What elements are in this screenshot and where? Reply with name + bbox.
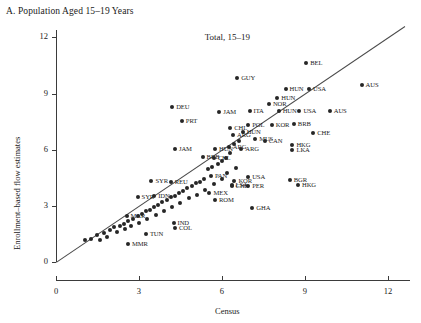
- data-point: [296, 183, 300, 187]
- data-point-label: MEX: [213, 189, 227, 196]
- data-point: [160, 200, 164, 204]
- data-point-label: JAM: [223, 108, 236, 115]
- data-point: [178, 201, 182, 205]
- data-point: [162, 209, 166, 213]
- y-tick: [52, 37, 56, 38]
- data-point: [165, 198, 169, 202]
- data-point-label: BRB: [298, 120, 311, 127]
- data-point: [131, 217, 135, 221]
- x-tick: [56, 276, 57, 280]
- data-point: [98, 238, 102, 242]
- data-point: [250, 206, 254, 210]
- y-tick-label: 6: [24, 144, 48, 154]
- x-tick: [222, 276, 223, 280]
- data-point: [220, 177, 224, 181]
- data-point: [198, 180, 202, 184]
- x-tick-label: 6: [207, 286, 237, 296]
- data-point: [118, 224, 122, 228]
- data-point: [304, 61, 308, 65]
- data-point: [180, 119, 184, 123]
- data-point-label: BEL: [310, 59, 322, 66]
- data-point: [213, 198, 217, 202]
- data-point-label: AUS: [366, 81, 379, 88]
- data-point: [307, 87, 311, 91]
- data-point: [190, 184, 194, 188]
- data-point: [230, 184, 234, 188]
- data-point: [213, 147, 217, 151]
- data-point: [126, 242, 130, 246]
- x-axis: [56, 280, 410, 281]
- data-point-label: CHL: [234, 124, 247, 131]
- data-point: [154, 213, 158, 217]
- x-tick: [139, 276, 140, 280]
- data-point: [173, 194, 177, 198]
- data-point-label: HKG: [302, 181, 316, 188]
- y-tick: [52, 94, 56, 95]
- data-point: [170, 205, 174, 209]
- data-point: [207, 191, 211, 195]
- x-tick-label: 12: [373, 286, 403, 296]
- data-point: [220, 159, 224, 163]
- data-point: [173, 147, 177, 151]
- data-point: [125, 214, 129, 218]
- data-point: [270, 123, 274, 127]
- data-point: [216, 162, 220, 166]
- data-point: [360, 83, 364, 87]
- data-point: [126, 219, 130, 223]
- data-point-label: CAN: [269, 137, 283, 144]
- data-point: [145, 217, 149, 221]
- data-point: [195, 193, 199, 197]
- data-point: [212, 182, 216, 186]
- data-point-label: JAM: [179, 145, 192, 152]
- y-tick: [52, 206, 56, 207]
- data-point: [123, 227, 127, 231]
- x-tick-label: 0: [41, 286, 71, 296]
- x-axis-label: Census: [215, 306, 240, 316]
- data-point: [137, 221, 141, 225]
- data-point: [297, 109, 301, 113]
- data-point-label: NOR: [273, 100, 287, 107]
- data-point: [217, 110, 221, 114]
- data-point-label: GHA: [256, 204, 270, 211]
- data-point-label: HUN: [283, 107, 297, 114]
- data-point-label: DEU: [176, 103, 189, 110]
- data-point-label: USA: [252, 173, 265, 180]
- data-point-label: SYR: [155, 177, 168, 184]
- data-point-label: ROM: [219, 196, 234, 203]
- data-point: [185, 186, 189, 190]
- data-point-label: ITA: [254, 107, 264, 114]
- data-point: [235, 76, 239, 80]
- data-point: [202, 177, 206, 181]
- data-point-label: ARG: [237, 131, 251, 138]
- data-point: [173, 226, 177, 230]
- data-point-label: REU: [175, 178, 188, 185]
- data-point-label: PER: [252, 182, 264, 189]
- data-point: [239, 147, 243, 151]
- data-point: [129, 224, 133, 228]
- data-point-label: AUS: [334, 107, 347, 114]
- data-point: [237, 139, 241, 143]
- y-tick: [52, 150, 56, 151]
- data-point: [136, 214, 140, 218]
- y-axis-label: Enrollment–based flow estimates: [12, 137, 22, 250]
- data-point-label: TUN: [150, 230, 163, 237]
- y-tick-label: 3: [24, 200, 48, 210]
- data-point-label: CHE: [317, 129, 330, 136]
- data-point: [225, 171, 229, 175]
- data-point: [288, 178, 292, 182]
- data-point: [253, 137, 257, 141]
- data-point: [290, 143, 294, 147]
- data-point: [210, 165, 214, 169]
- y-tick-label: 9: [24, 88, 48, 98]
- data-point-label: KOR: [276, 121, 290, 128]
- data-point: [112, 225, 116, 229]
- data-point-label: GUY: [241, 74, 255, 81]
- chart-figure: A. Population Aged 15–19 Years Total, 15…: [0, 0, 421, 323]
- data-point: [187, 196, 191, 200]
- x-tick-label: 3: [124, 286, 154, 296]
- x-tick: [388, 276, 389, 280]
- data-point-label: ARG: [245, 145, 259, 152]
- data-point: [284, 87, 288, 91]
- data-point: [149, 179, 153, 183]
- y-tick-label: 0: [24, 256, 48, 266]
